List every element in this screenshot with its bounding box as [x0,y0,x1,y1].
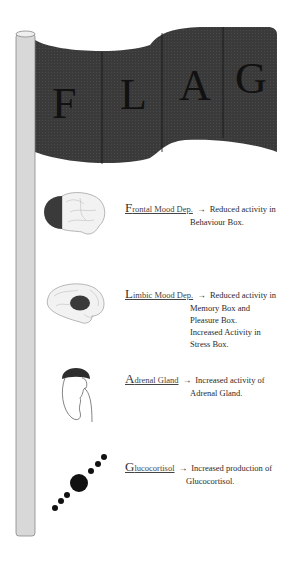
effect-line: Memory Box and [190,302,250,314]
effect-line: Adrenal Gland. [190,387,242,399]
effect-line: Reduced activity in [210,204,276,214]
item-adrenal: Adrenal Gland → Increased activity of [125,373,265,386]
arrow-icon: → [197,290,206,300]
effect-line: Increased Activity in [190,326,261,338]
arrow-icon: → [183,375,192,385]
kidney-adrenal-icon [62,368,92,422]
effect-line: Pleasure Box. [190,314,237,326]
effect-line: Behaviour Box. [190,216,244,228]
term-frontal: Frontal Mood Dep. [125,204,193,214]
item-limbic: Limbic Mood Dep. → Reduced activity in [125,288,276,301]
arrow-icon: → [179,463,188,473]
effect-line: Glucocortisol. [186,475,234,487]
icons-layer [0,0,288,561]
effect-line: Reduced activity in [210,290,276,300]
term-limbic: Limbic Mood Dep. [125,290,193,300]
term-glucocortisol: Glucocortisol [125,463,175,473]
item-glucocortisol: Glucocortisol → Increased production of [125,461,272,474]
effect-line: Increased production of [191,463,272,473]
brain-frontal-highlight-icon [44,193,105,234]
brain-limbic-highlight-icon [47,284,104,323]
arrow-icon: → [197,204,206,214]
item-frontal: Frontal Mood Dep. → Reduced activity in [125,202,276,215]
glucocortisol-molecule-icon [52,454,107,511]
effect-line: Stress Box. [190,338,229,350]
term-adrenal: Adrenal Gland [125,375,179,385]
effect-line: Increased activity of [195,375,264,385]
